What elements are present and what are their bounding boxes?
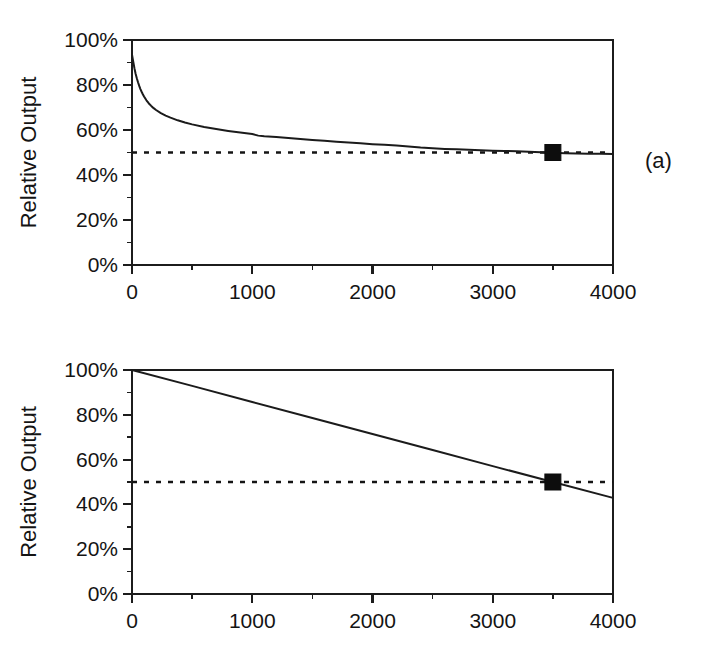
y-axis-tick-label: 100%: [64, 358, 118, 381]
y-axis-tick-label: 40%: [76, 492, 118, 515]
x-axis-tick-label: 3000: [469, 609, 516, 632]
chart-panel-b: 0%20%40%60%80%100%01000200030004000Relat…: [0, 330, 717, 669]
y-axis-tick-label: 60%: [76, 448, 118, 471]
y-axis-tick-label: 100%: [64, 28, 118, 51]
x-axis-tick-label: 1000: [229, 280, 276, 303]
data-series-line: [132, 370, 613, 498]
y-axis-tick-label: 0%: [88, 253, 118, 276]
y-axis-title: Relative Output: [16, 406, 41, 558]
y-axis-tick-label: 20%: [76, 208, 118, 231]
x-axis-tick-label: 2000: [349, 280, 396, 303]
figure-two-panel-decay-plots: 0%20%40%60%80%100%01000200030004000Relat…: [0, 0, 717, 669]
x-axis-tick-label: 2000: [349, 609, 396, 632]
data-point-marker: [545, 474, 561, 490]
y-axis-tick-label: 60%: [76, 118, 118, 141]
y-axis-tick-label: 0%: [88, 582, 118, 605]
y-axis-tick-label: 20%: [76, 537, 118, 560]
y-axis-tick-label: 80%: [76, 73, 118, 96]
panel-label-a: (a): [645, 148, 672, 174]
x-axis-tick-label: 0: [126, 609, 138, 632]
x-axis-tick-label: 3000: [469, 280, 516, 303]
y-axis-title: Relative Output: [16, 77, 41, 229]
plot-a-canvas: 0%20%40%60%80%100%01000200030004000Relat…: [0, 0, 717, 330]
data-point-marker: [545, 145, 561, 161]
data-series-line: [132, 55, 613, 154]
x-axis-tick-label: 4000: [590, 609, 637, 632]
x-axis-tick-label: 0: [126, 280, 138, 303]
x-axis-tick-label: 1000: [229, 609, 276, 632]
y-axis-tick-label: 80%: [76, 403, 118, 426]
y-axis-tick-label: 40%: [76, 163, 118, 186]
x-axis-tick-label: 4000: [590, 280, 637, 303]
plot-b-canvas: 0%20%40%60%80%100%01000200030004000Relat…: [0, 330, 717, 669]
chart-panel-a: 0%20%40%60%80%100%01000200030004000Relat…: [0, 0, 717, 330]
